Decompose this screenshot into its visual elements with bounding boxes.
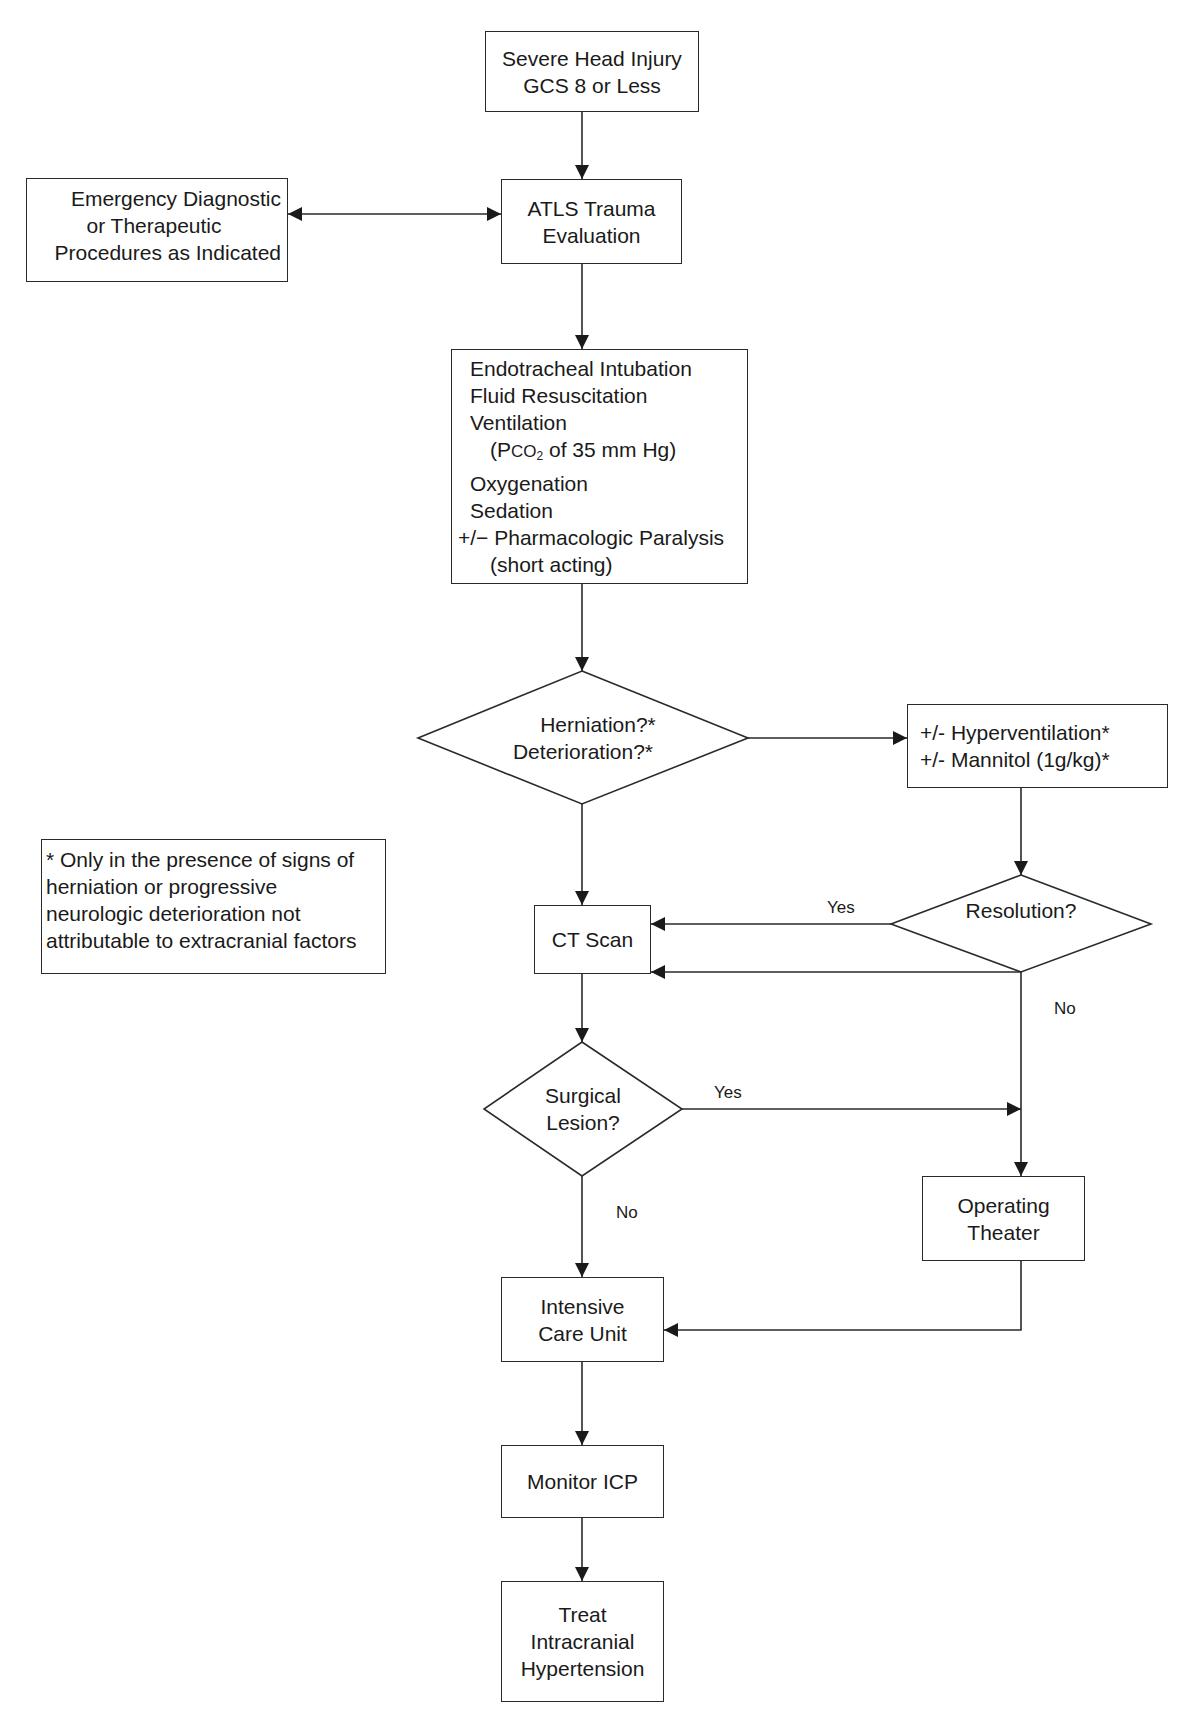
edge-label-surgical-yes: Yes	[714, 1083, 742, 1103]
node-text: Endotracheal Intubation	[470, 355, 692, 382]
node-monitor-icp: Monitor ICP	[501, 1445, 664, 1518]
edge-label-resolution-yes: Yes	[827, 898, 855, 918]
node-text: +/− Pharmacologic Paralysis	[458, 524, 724, 551]
node-text: Surgical	[545, 1082, 621, 1109]
node-text: Monitor ICP	[527, 1468, 638, 1495]
node-severe-head-injury: Severe Head Injury GCS 8 or Less	[485, 31, 699, 112]
text-fragment: (P	[490, 438, 511, 461]
footnote-text: * Only in the presence of signs of	[46, 846, 354, 873]
node-text: Hypertension	[521, 1655, 645, 1682]
node-treat-intracranial-hypertension: Treat Intracranial Hypertension	[501, 1581, 664, 1702]
footnote-text: neurologic deterioration not	[46, 900, 301, 927]
arrowhead-into-atls	[487, 207, 501, 221]
node-initial-management: Endotracheal Intubation Fluid Resuscitat…	[451, 349, 748, 584]
node-text: Sedation	[470, 497, 553, 524]
node-herniation-decision: Herniation?* Deterioration?*	[418, 671, 748, 804]
node-text: Evaluation	[542, 222, 640, 249]
text-fragment: CO	[511, 442, 537, 461]
node-text: +/- Hyperventilation*	[920, 719, 1110, 746]
node-text: CT Scan	[552, 926, 633, 953]
node-text: Ventilation	[470, 409, 567, 436]
footnote-box: * Only in the presence of signs of herni…	[41, 839, 386, 974]
footnote-text: attributable to extracranial factors	[46, 927, 357, 954]
edge-or-icu	[664, 1261, 1021, 1330]
node-text: Herniation?*	[510, 711, 656, 738]
node-hyperventilation-mannitol: +/- Hyperventilation* +/- Mannitol (1g/k…	[907, 704, 1168, 788]
node-text: Intensive	[540, 1293, 624, 1320]
node-text: Emergency Diagnostic	[71, 185, 281, 212]
footnote-text: herniation or progressive	[46, 873, 277, 900]
node-intensive-care-unit: Intensive Care Unit	[501, 1277, 664, 1362]
node-atls-trauma-evaluation: ATLS Trauma Evaluation	[501, 179, 682, 264]
node-operating-theater: Operating Theater	[922, 1176, 1085, 1261]
node-text: Treat	[558, 1601, 606, 1628]
node-surgical-lesion-decision: Surgical Lesion?	[484, 1042, 682, 1176]
node-text: Deterioration?*	[513, 738, 653, 765]
node-text: +/- Mannitol (1g/kg)*	[920, 746, 1110, 773]
node-text: (short acting)	[470, 551, 613, 578]
node-text: Oxygenation	[470, 470, 588, 497]
edge-label-resolution-no: No	[1054, 999, 1076, 1019]
node-text: or Therapeutic	[86, 212, 221, 239]
node-text: Procedures as Indicated	[55, 239, 281, 266]
node-text: Fluid Resuscitation	[470, 382, 647, 409]
edge-label-surgical-no: No	[616, 1203, 638, 1223]
node-text: Intracranial	[531, 1628, 635, 1655]
node-text: GCS 8 or Less	[523, 72, 661, 99]
node-emergency-procedures: Emergency Diagnostic or Therapeutic Proc…	[26, 178, 288, 282]
node-text-pco2: (PCO2 of 35 mm Hg)	[470, 436, 676, 470]
node-text: Lesion?	[546, 1109, 620, 1136]
node-ct-scan: CT Scan	[534, 905, 651, 974]
text-fragment: of 35 mm Hg)	[543, 438, 676, 461]
node-text: Severe Head Injury	[502, 45, 682, 72]
node-text: Theater	[967, 1219, 1039, 1246]
node-resolution-decision: Resolution?	[891, 875, 1151, 945]
node-text: Care Unit	[538, 1320, 627, 1347]
node-text: Resolution?	[966, 897, 1077, 924]
node-text: ATLS Trauma	[528, 195, 656, 222]
node-text: Operating	[957, 1192, 1049, 1219]
